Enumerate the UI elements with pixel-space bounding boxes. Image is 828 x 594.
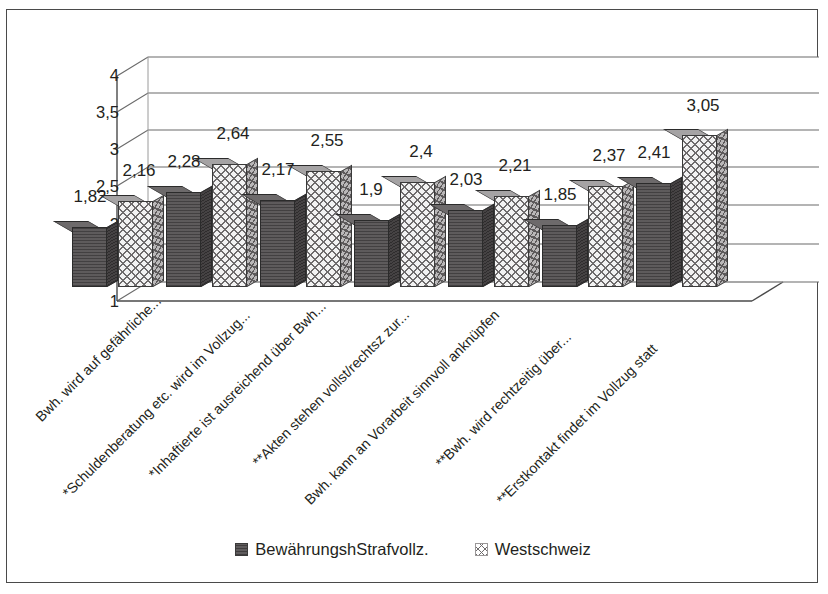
plot-area: 4 3,5 3 2,5 2 1,5 1	[7, 10, 819, 510]
bar-front-face	[494, 196, 529, 287]
bar-series1-cat6[interactable]	[542, 225, 577, 287]
bar-front-face	[166, 192, 201, 287]
bar-front-face	[118, 201, 153, 287]
bar-series2-cat2[interactable]	[212, 164, 247, 287]
bar-side-face	[623, 180, 634, 287]
value-label-s2-c7: 3,05	[672, 97, 734, 114]
bar-series2-cat7[interactable]	[682, 135, 717, 287]
bar-side-face	[435, 176, 446, 287]
y-tick-3-5: 3,5	[75, 104, 119, 121]
chart-legend: BewährungshStrafvollz. Westschweiz	[7, 540, 819, 559]
bar-front-face	[400, 182, 435, 287]
chart-frame: 4 3,5 3 2,5 2 1,5 1	[6, 9, 818, 583]
legend-item-westschweiz[interactable]: Westschweiz	[475, 540, 591, 559]
bar-side-face	[295, 194, 306, 287]
bar-front-face	[212, 164, 247, 287]
legend-label-2: Westschweiz	[495, 540, 591, 559]
bar-side-face	[717, 129, 728, 287]
floor-right-edge	[752, 282, 783, 301]
value-label-s2-c5: 2,21	[484, 157, 546, 174]
y-tick-1: 1	[75, 293, 119, 310]
bar-front-face	[354, 220, 389, 287]
legend-item-bewaehrungsh-strafvollz[interactable]: BewährungshStrafvollz.	[235, 540, 428, 559]
value-label-s2-c1: 2,16	[108, 162, 170, 179]
legend-swatch-dark-icon	[235, 543, 248, 556]
value-label-s1-c1: 1,82	[59, 188, 121, 205]
bar-side-face	[529, 190, 540, 287]
bar-front-face	[542, 225, 577, 287]
bar-side-face	[577, 219, 588, 287]
bar-front-face	[588, 186, 623, 287]
value-label-s1-c6: 1,85	[529, 186, 591, 203]
bar-series1-cat3[interactable]	[260, 200, 295, 287]
bar-series1-cat4[interactable]	[354, 220, 389, 287]
value-label-s1-c4: 1,9	[345, 181, 397, 198]
value-label-s2-c2: 2,64	[202, 125, 264, 142]
value-label-s2-c4: 2,4	[395, 143, 447, 160]
bar-front-face	[448, 210, 483, 287]
bar-side-face	[389, 214, 400, 287]
bar-series2-cat5[interactable]	[494, 196, 529, 287]
bar-series2-cat1[interactable]	[118, 201, 153, 287]
bar-side-face	[671, 177, 682, 287]
bar-series1-cat7[interactable]	[636, 183, 671, 287]
bar-series1-cat1[interactable]	[72, 227, 107, 287]
bar-front-face	[636, 183, 671, 287]
bar-front-face	[260, 200, 295, 287]
bar-front-face	[306, 171, 341, 287]
bar-front-face	[72, 227, 107, 287]
y-tick-4: 4	[75, 67, 119, 84]
value-label-s2-c3: 2,55	[296, 132, 358, 149]
bar-side-face	[201, 186, 212, 287]
bar-series1-cat5[interactable]	[448, 210, 483, 287]
value-label-s2-c6: 2,37	[578, 147, 640, 164]
bar-series2-cat6[interactable]	[588, 186, 623, 287]
bar-side-face	[483, 204, 494, 287]
bar-front-face	[682, 135, 717, 287]
legend-label-1: BewährungshStrafvollz.	[255, 540, 428, 559]
bar-series1-cat2[interactable]	[166, 192, 201, 287]
bar-series2-cat3[interactable]	[306, 171, 341, 287]
bar-series2-cat4[interactable]	[400, 182, 435, 287]
bar-side-face	[153, 195, 164, 287]
y-tick-3: 3	[75, 141, 119, 158]
bar-side-face	[107, 221, 118, 287]
legend-swatch-hatch-icon	[475, 543, 488, 556]
value-label-s1-c3: 2,17	[247, 161, 309, 178]
